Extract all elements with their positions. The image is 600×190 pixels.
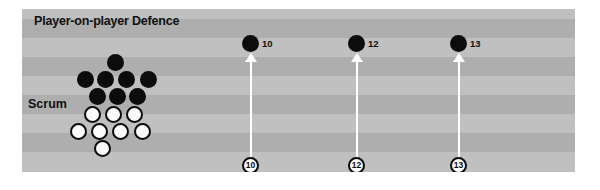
defender-marker: 12 <box>348 157 365 172</box>
scrum-label: Scrum <box>28 97 67 111</box>
defender-marker-number: 12 <box>352 161 361 170</box>
scrum-attacker-pod <box>97 71 114 88</box>
attacking-back-dot <box>348 35 365 52</box>
arrow-shaft <box>250 60 252 157</box>
scrum-attacker-pod <box>118 71 135 88</box>
scrum-defender-pod <box>94 140 111 157</box>
scrum-defender-pod <box>105 106 122 123</box>
up-arrow-icon <box>350 53 364 157</box>
defender-marker: 10 <box>242 157 259 172</box>
arrow-head-icon <box>245 53 257 62</box>
pitch-field: Player-on-player Defence Scrum 101213 10… <box>22 9 575 172</box>
scrum-attacker-pod <box>129 88 146 105</box>
scrum-defender-pod <box>112 123 129 140</box>
arrow-head-icon <box>351 53 363 62</box>
scrum-attacker-pod <box>140 71 157 88</box>
attacking-back-number: 10 <box>262 38 273 49</box>
scrum-attacker-pod <box>89 88 106 105</box>
attacking-back-dot <box>450 35 467 52</box>
up-arrow-icon <box>244 53 258 157</box>
scrum-attacker-pod <box>77 71 94 88</box>
pitch-stripe <box>22 38 575 57</box>
scrum-defender-pod <box>70 123 87 140</box>
attacking-back-number: 12 <box>368 38 379 49</box>
arrow-shaft <box>458 60 460 157</box>
diagram-title: Player-on-player Defence <box>34 14 179 28</box>
arrow-shaft <box>356 60 358 157</box>
defender-marker: 13 <box>450 157 467 172</box>
attacking-back-number: 13 <box>470 38 481 49</box>
scrum-defender-pod <box>91 123 108 140</box>
scrum-defender-pod <box>134 123 151 140</box>
scrum-defender-pod <box>84 106 101 123</box>
scrum-defender-pod <box>126 106 143 123</box>
scrum-attacker-pod <box>107 54 124 71</box>
scrum-attacker-pod <box>109 88 126 105</box>
rugby-tactics-diagram: Player-on-player Defence Scrum 101213 10… <box>0 0 600 190</box>
up-arrow-icon <box>452 53 466 157</box>
arrow-head-icon <box>453 53 465 62</box>
defender-marker-number: 10 <box>246 161 255 170</box>
defender-marker-number: 13 <box>454 161 463 170</box>
attacking-back-dot <box>242 35 259 52</box>
